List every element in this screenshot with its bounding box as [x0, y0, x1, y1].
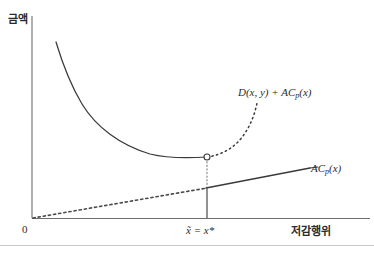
- minimum-point-marker: [204, 154, 210, 160]
- total-cost-label-suffix: (x): [299, 86, 311, 98]
- acp-label-suffix: (x): [329, 162, 341, 174]
- x-axis-title: 저감행위: [291, 226, 331, 237]
- economics-cost-curve-figure: 금액 저감행위 0 D(x, y) + ACp(x) ACp(x) x̃ = x…: [0, 0, 374, 259]
- x-tick-label-optimum: x̃ = x*: [186, 225, 214, 236]
- y-axis-title: 금액: [8, 14, 28, 25]
- acp-curve-dashed-segment: [33, 188, 207, 218]
- origin-label: 0: [22, 224, 28, 235]
- page-bottom-rule: [0, 245, 374, 246]
- total-cost-curve-solid-branch: [56, 42, 207, 158]
- acp-label-prefix: AC: [311, 162, 325, 174]
- total-cost-label-prefix: D(x, y) + AC: [238, 86, 295, 98]
- plot-canvas: [0, 0, 374, 259]
- acp-curve-label: ACp(x): [311, 163, 341, 176]
- total-cost-curve-label: D(x, y) + ACp(x): [238, 87, 312, 100]
- acp-curve-solid-segment: [206, 168, 310, 188]
- total-cost-curve-dashed-branch: [207, 103, 257, 157]
